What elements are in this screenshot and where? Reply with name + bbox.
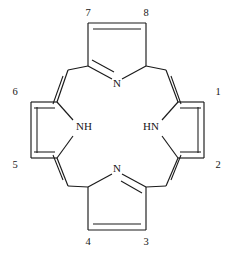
locant-3-label: 3 (143, 236, 148, 247)
locant-4-label: 4 (85, 236, 91, 247)
locant-5-label: 5 (12, 159, 17, 170)
nitrogen-left-nh-label: NH (76, 120, 92, 132)
nitrogen-right-hn-label: HN (143, 120, 159, 132)
locant-6-label: 6 (12, 86, 17, 97)
nitrogen-top-label: N (113, 77, 121, 89)
locant-8-label: 8 (143, 7, 148, 18)
locant-2-label: 2 (215, 159, 220, 170)
nitrogen-bottom-label: N (113, 162, 121, 174)
locant-1-label: 1 (215, 86, 220, 97)
porphyrin-structure-diagram: NNNHHN 12345678 (0, 0, 235, 256)
locant-7-label: 7 (85, 7, 90, 18)
diagram-background (0, 0, 235, 256)
